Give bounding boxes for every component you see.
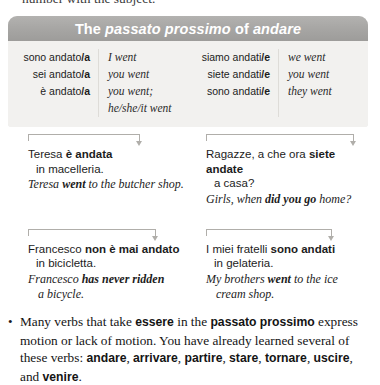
example-english-pre: Girls, when	[206, 192, 265, 206]
plural-group: siamo andati/e siete andati/e sono andat…	[188, 49, 368, 117]
bullet-term-passato-prossimo: passato prossimo	[210, 315, 314, 329]
example-english: My brothers went to the icecream shop.	[206, 272, 372, 302]
example-italian-bold: non è mai andato	[85, 243, 180, 255]
verb-partire: partire	[184, 351, 222, 365]
example-italian-bold: è andata	[66, 148, 113, 160]
example-italian-pre: Ragazze, a che ora	[206, 148, 309, 160]
example-english-pre: Francesco	[28, 272, 82, 286]
translation: you went	[288, 66, 368, 83]
examples-row-bottom: Francesco non è mai andatoin bicicletta.…	[0, 225, 380, 302]
singular-italian-column: sono andato/a sei andato/a è andato/a	[8, 49, 98, 117]
example-english: Girls, when did you go home?	[206, 192, 372, 207]
example-english-bold: went	[268, 272, 291, 286]
example-italian: Ragazze, a che ora siete andatea casa?	[206, 147, 372, 191]
conjugation-suffix: /a	[81, 51, 90, 63]
table-row: siete andati/e	[188, 66, 270, 83]
connector-bracket	[206, 225, 372, 241]
example-3: Francesco non è mai andatoin bicicletta.…	[0, 225, 190, 302]
example-italian: Teresa è andatain macelleria.	[28, 147, 184, 176]
conjugation-suffix: /e	[261, 85, 270, 97]
singular-english-column: I went you went you went; he/she/it went	[98, 49, 188, 117]
panel-title-lead: The	[75, 21, 105, 37]
connector-bracket	[28, 225, 184, 241]
conjugation-table: sono andato/a sei andato/a è andato/a I …	[8, 41, 368, 127]
conjugation-suffix: /e	[261, 51, 270, 63]
bullet-term-essere: essere	[135, 315, 174, 329]
bullet-verb-list: andare, arrivare, partire, stare, tornar…	[86, 350, 349, 365]
conjugation-suffix: /a	[81, 68, 90, 80]
verb-andare: andare	[86, 351, 126, 365]
translation: they went	[288, 83, 368, 100]
bullet-seg-2: in the	[174, 314, 211, 329]
example-italian: Francesco non è mai andatoin bicicletta.	[28, 242, 184, 271]
bullet-paragraph: • Many verbs that take essere in the pas…	[0, 313, 380, 385]
arrow-down-icon	[152, 236, 158, 241]
clipped-previous-line: number with the subject.	[22, 0, 155, 7]
example-italian-line2: in macelleria.	[28, 162, 184, 177]
example-english-post: to the ice	[291, 272, 338, 286]
verb-uscire: uscire	[314, 351, 350, 365]
conjugation-panel: The passato prossimo of andare sono anda…	[8, 16, 368, 127]
conjugation-stem: siete andati	[208, 68, 262, 80]
bullet-text: Many verbs that take essere in the passa…	[20, 313, 372, 385]
panel-title-mid: of	[231, 21, 253, 37]
plural-italian-column: siamo andati/e siete andati/e sono andat…	[188, 49, 278, 117]
plural-english-column: we went you went they went	[278, 49, 368, 117]
connector-bracket	[28, 130, 184, 146]
example-english-bold: has never ridden	[82, 272, 165, 286]
example-italian-line2: in gelateria.	[206, 256, 372, 271]
conjugation-stem: sono andato	[23, 51, 81, 63]
examples-section: Teresa è andatain macelleria. Teresa wen…	[0, 130, 380, 302]
arrow-down-icon	[328, 236, 334, 241]
example-english: Teresa went to the butcher shop.	[28, 177, 184, 192]
table-row: sei andato/a	[8, 66, 90, 83]
example-1: Teresa è andatain macelleria. Teresa wen…	[0, 130, 190, 207]
singular-group: sono andato/a sei andato/a è andato/a I …	[8, 49, 188, 117]
example-italian-pre: Francesco	[28, 243, 85, 255]
example-english-pre: Teresa	[28, 177, 62, 191]
panel-title-term: passato prossimo	[105, 21, 231, 37]
verb-arrivare: arrivare	[133, 351, 178, 365]
translation-continued: he/she/it went	[108, 100, 188, 117]
panel-title-verb: andare	[253, 21, 301, 37]
bullet-marker-icon: •	[0, 313, 20, 385]
example-english-bold: went	[62, 177, 85, 191]
table-row: siamo andati/e	[188, 49, 270, 66]
conjugation-suffix: /e	[261, 68, 270, 80]
table-row: sono andato/a	[8, 49, 90, 66]
examples-row-top: Teresa è andatain macelleria. Teresa wen…	[0, 130, 380, 207]
translation: you went	[108, 66, 188, 83]
conjugation-stem: sei andato	[33, 68, 81, 80]
example-english-bold: did you go	[265, 192, 316, 206]
example-4: I miei fratelli sono andatiin gelateria.…	[190, 225, 380, 302]
panel-header: The passato prossimo of andare	[8, 16, 368, 41]
verb-venire: venire	[43, 370, 79, 384]
verb-stare: stare	[229, 351, 258, 365]
example-italian-pre: I miei fratelli	[206, 243, 271, 255]
bullet-seg-5: .	[78, 369, 81, 384]
example-italian-line2: a casa?	[206, 176, 372, 191]
verb-tornare: tornare	[265, 351, 307, 365]
connector-bracket	[206, 130, 372, 146]
arrow-down-icon	[350, 141, 356, 146]
translation: we went	[288, 49, 368, 66]
conjugation-stem: sono andati	[207, 85, 261, 97]
example-italian: I miei fratelli sono andatiin gelateria.	[206, 242, 372, 271]
panel-title: The passato prossimo of andare	[75, 21, 301, 37]
arrow-down-icon	[136, 141, 142, 146]
translation: I went	[108, 49, 188, 66]
bullet-seg-1: Many verbs that take	[20, 314, 135, 329]
example-english-post: home?	[316, 192, 351, 206]
conjugation-stem: è andato	[40, 85, 81, 97]
example-2: Ragazze, a che ora siete andatea casa? G…	[190, 130, 380, 207]
example-english: Francesco has never riddena bicycle.	[28, 272, 184, 302]
table-row: è andato/a	[8, 83, 90, 100]
example-english-line2: cream shop.	[206, 287, 372, 302]
example-english-pre: My brothers	[206, 272, 268, 286]
example-english-line2: a bicycle.	[28, 287, 184, 302]
translation: you went;	[108, 83, 188, 100]
conjugation-stem: siamo andati	[202, 51, 262, 63]
conjugation-suffix: /a	[81, 85, 90, 97]
example-italian-pre: Teresa	[28, 148, 66, 160]
table-row: sono andati/e	[188, 83, 270, 100]
